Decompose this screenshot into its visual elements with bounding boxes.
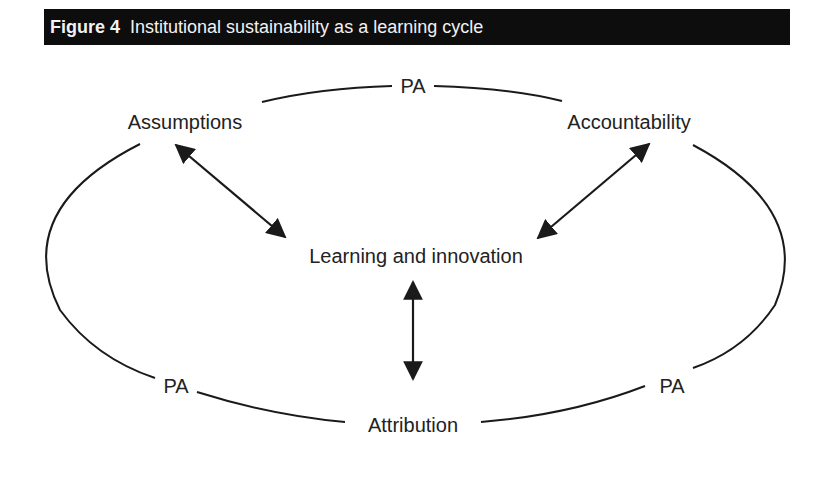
- node-learning: Learning and innovation: [309, 246, 523, 266]
- node-attribution: Attribution: [368, 415, 458, 435]
- arc-top-left: [262, 86, 392, 102]
- node-assumptions: Assumptions: [128, 112, 243, 132]
- arc-bottom-left: [197, 392, 345, 422]
- pa-label-top: PA: [400, 76, 425, 96]
- pa-label-bottom-left: PA: [163, 376, 188, 396]
- arc-bottom-right: [481, 386, 645, 422]
- arrow-accountability-learning: [538, 144, 649, 238]
- node-accountability: Accountability: [567, 112, 690, 132]
- arc-top-right: [434, 86, 562, 101]
- pa-label-bottom-right: PA: [659, 376, 684, 396]
- arc-left: [46, 144, 155, 378]
- arc-right: [693, 145, 785, 368]
- arrow-assumptions-learning: [176, 145, 285, 237]
